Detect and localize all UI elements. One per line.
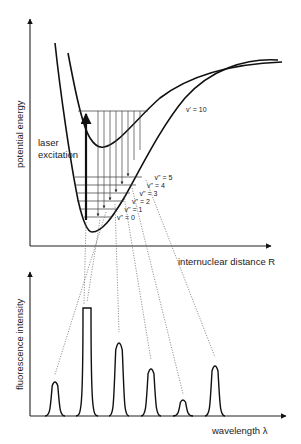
laser-excitation-label-line2: excitation bbox=[38, 149, 78, 160]
potential-energy-panel: potential energy internuclear distance R… bbox=[14, 19, 282, 267]
transition-connector bbox=[146, 180, 215, 357]
spectrum-peak-3 bbox=[109, 343, 129, 416]
laser-excitation-label-line1: laser bbox=[38, 137, 59, 148]
ground-level-label-v3: v" = 3 bbox=[140, 190, 158, 197]
spectrum-peak-2 bbox=[76, 308, 98, 416]
ground-state-level-labels: v" = 0v" = 1v" = 2v" = 3v" = 4v" = 5 bbox=[117, 174, 172, 221]
ground-state-potential-curve bbox=[55, 43, 278, 232]
transition-connector bbox=[55, 212, 106, 374]
spectrum-peak-6 bbox=[205, 366, 225, 416]
fluorescence-spectrum-panel: fluorescence intensity wavelength λ bbox=[14, 272, 286, 436]
fluorescence-intensity-axis-label: fluorescence intensity bbox=[14, 298, 25, 390]
ground-level-label-v5: v" = 5 bbox=[155, 174, 173, 181]
spectrum-peak-5 bbox=[173, 400, 193, 416]
spectrum-peak-4 bbox=[141, 369, 161, 416]
excited-level-label: v' = 10 bbox=[186, 106, 207, 113]
transition-connector bbox=[115, 204, 119, 332]
excited-state-potential-curve bbox=[68, 53, 282, 147]
spectrum-peaks bbox=[45, 308, 225, 416]
potential-energy-axis-label: potential energy bbox=[14, 100, 25, 168]
ground-level-label-v1: v" = 1 bbox=[125, 206, 143, 213]
spectrum-peak-1 bbox=[45, 382, 65, 416]
wavelength-axis-label: wavelength λ bbox=[211, 425, 268, 436]
transition-connector bbox=[84, 222, 86, 304]
ground-level-label-v4: v" = 4 bbox=[147, 182, 165, 189]
transition-connector bbox=[132, 188, 183, 394]
internuclear-distance-axis-label: internuclear distance R bbox=[178, 256, 275, 267]
laser-induced-fluorescence-diagram: potential energy internuclear distance R… bbox=[0, 0, 301, 444]
ground-level-label-v0: v" = 0 bbox=[117, 214, 135, 221]
